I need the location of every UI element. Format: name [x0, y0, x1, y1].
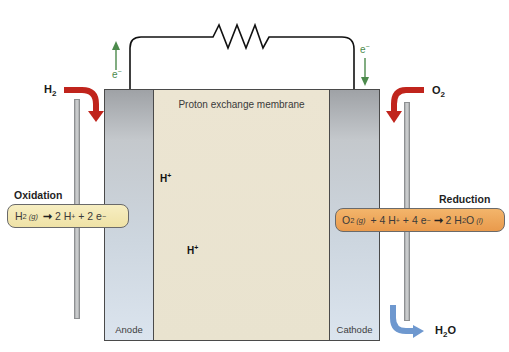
reaction-arrow-icon: ➞	[434, 214, 443, 226]
electron-arrow-down-icon	[361, 58, 369, 86]
cathode-label: Cathode	[330, 324, 379, 335]
reduction-equation: O2 (g) + 4 H+ + 4 e− ➞ 2 H2O (l)	[335, 208, 505, 232]
circuit-wire	[130, 25, 354, 89]
reduction-title: Reduction	[439, 193, 490, 205]
electron-label-left: e−	[112, 68, 122, 80]
water-output-label: H2O	[435, 324, 456, 339]
proton-label: H+	[187, 244, 198, 256]
electron-label-right: e−	[360, 43, 370, 55]
reaction-arrow-icon: ➞	[43, 210, 52, 222]
hydrogen-inlet-arrow-icon	[64, 90, 104, 122]
proton-exchange-membrane: Proton exchange membrane	[154, 90, 329, 340]
oxidation-equation: H2 (g) ➞ 2 H+ + 2 e−	[7, 204, 129, 228]
proton-label: H+	[160, 172, 171, 184]
anode-label: Anode	[105, 324, 153, 335]
electron-arrow-up-icon	[112, 41, 120, 70]
oxygen-gas-label: O2	[432, 84, 445, 99]
hydrogen-gas-label: H2	[44, 83, 56, 98]
membrane-label: Proton exchange membrane	[154, 99, 329, 110]
oxidation-title: Oxidation	[14, 189, 62, 201]
